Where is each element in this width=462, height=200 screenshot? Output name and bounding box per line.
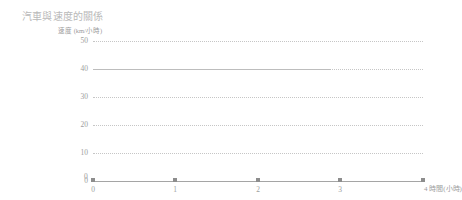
y-axis-ticks: 50 40 30 20 10 0 bbox=[60, 41, 88, 181]
y-tick-label-10: 10 bbox=[62, 149, 88, 157]
origin-zero-label: 0 bbox=[84, 173, 88, 181]
x-marker-1 bbox=[173, 178, 177, 182]
y-tick-label-50: 50 bbox=[62, 37, 88, 45]
x-marker-3 bbox=[338, 178, 342, 182]
x-tick-label-1: 1 bbox=[173, 185, 177, 194]
y-tick-label-20: 20 bbox=[62, 121, 88, 129]
x-marker-0 bbox=[91, 178, 95, 182]
y-axis-title: 速度 (km/小時) bbox=[58, 26, 102, 35]
x-tick-label-2: 2 bbox=[256, 185, 260, 194]
plot-area bbox=[93, 41, 423, 181]
x-marker-4 bbox=[421, 178, 425, 182]
x-axis-title: 4 時間(小時) bbox=[424, 185, 462, 194]
gridline-50 bbox=[93, 41, 423, 42]
y-tick-label-30: 30 bbox=[62, 93, 88, 101]
chart-title: 汽車與速度的關係 bbox=[22, 10, 104, 23]
data-series-speed bbox=[93, 69, 331, 70]
x-tick-label-3: 3 bbox=[338, 185, 342, 194]
y-tick-label-40: 40 bbox=[62, 65, 88, 73]
gridline-30 bbox=[93, 97, 423, 98]
gridline-10 bbox=[93, 153, 423, 154]
x-tick-label-0: 0 bbox=[91, 185, 95, 194]
x-marker-2 bbox=[256, 178, 260, 182]
gridline-20 bbox=[93, 125, 423, 126]
